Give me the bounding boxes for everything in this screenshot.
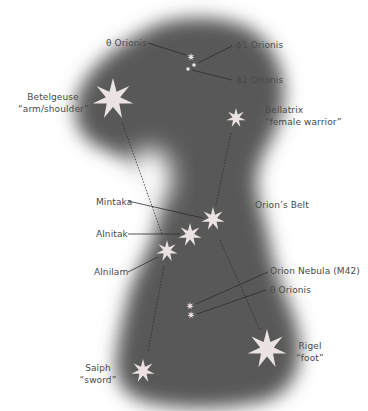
- label-bellatrix-meaning: “female warrior”: [265, 116, 342, 128]
- label-rigel: Rigel “foot”: [290, 340, 330, 364]
- orion-diagram: θ Orionis ϕ1 Orionis ϕ2 Orionis Betelgeu…: [0, 0, 368, 411]
- label-betelgeuse-name: Betelgeuse: [18, 91, 88, 103]
- label-rigel-name: Rigel: [290, 340, 330, 352]
- label-saiph: Saiph “sword”: [76, 362, 120, 386]
- label-bellatrix: Bellatrix “female warrior”: [265, 104, 342, 128]
- label-phi2-orionis: ϕ2 Orionis: [236, 74, 283, 86]
- label-rigel-meaning: “foot”: [290, 352, 330, 364]
- label-bellatrix-name: Bellatrix: [265, 104, 342, 116]
- label-orions-belt: Orion’s Belt: [255, 199, 309, 211]
- label-phi1-orionis: ϕ1 Orionis: [236, 39, 283, 51]
- label-betelgeuse: Betelgeuse “arm/shoulder”: [18, 91, 88, 115]
- star-phi2-orionis-icon: [186, 67, 190, 71]
- label-theta-orionis-top: θ Orionis: [106, 37, 147, 49]
- label-alnitak: Alnitak: [96, 228, 128, 240]
- label-mintaka: Mintaka: [96, 196, 132, 208]
- label-orion-nebula: Orion Nebula (M42): [270, 265, 360, 277]
- label-saiph-name: Saiph: [76, 362, 120, 374]
- label-saiph-meaning: “sword”: [76, 374, 120, 386]
- label-theta-orionis-bottom: θ Orionis: [270, 284, 311, 296]
- label-betelgeuse-meaning: “arm/shoulder”: [18, 103, 88, 115]
- star-phi1-orionis-icon: [192, 63, 196, 67]
- label-alnilam: Alnilam: [94, 266, 128, 278]
